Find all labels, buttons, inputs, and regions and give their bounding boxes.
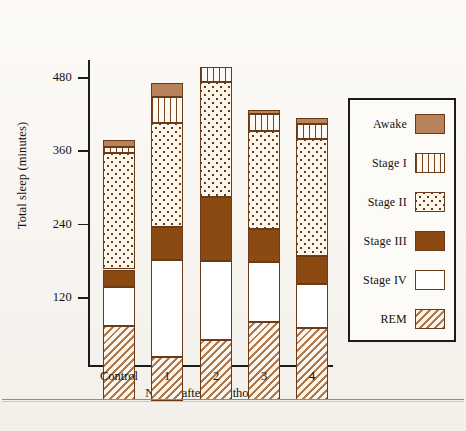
y-axis-line	[88, 60, 90, 367]
legend-box: Awake Stage I Stage II Stage III Stage I…	[348, 98, 456, 342]
legend-swatch-rem	[415, 309, 445, 329]
bar-night-2	[200, 67, 232, 400]
segment-stage-iii	[103, 270, 135, 288]
footer-rule-shadow	[2, 401, 464, 402]
segment-stage-ii	[248, 131, 280, 229]
legend-item-stage-ii: Stage II	[350, 186, 454, 218]
legend-swatch-stage-iv	[415, 270, 445, 290]
legend-swatch-stage-iii	[415, 231, 445, 251]
segment-rem	[248, 322, 280, 400]
segment-rem	[103, 326, 135, 400]
legend-label-stage-i: Stage I	[372, 156, 407, 171]
y-tick-360	[78, 150, 89, 152]
figure-canvas: 480 360 240 120 Total sleep (minutes) Ni…	[0, 0, 466, 431]
y-tick-240	[78, 224, 89, 226]
segment-stage-iii	[296, 256, 328, 284]
legend-swatch-stage-i	[415, 153, 445, 173]
segment-stage-i	[248, 114, 280, 131]
y-tick-label-480: 480	[14, 70, 72, 85]
segment-stage-ii	[296, 139, 328, 256]
bar-night-4	[296, 118, 328, 400]
segment-awake	[103, 140, 135, 147]
bar-control	[103, 140, 135, 400]
legend-item-rem: REM	[350, 303, 454, 335]
legend-label-rem: REM	[380, 312, 407, 327]
segment-awake	[151, 83, 183, 97]
segment-stage-iv	[296, 284, 328, 328]
segment-stage-ii	[103, 153, 135, 269]
plot-area: 480 360 240 120 Total sleep (minutes) Ni…	[0, 0, 350, 400]
segment-stage-i	[296, 124, 328, 139]
legend-label-stage-iii: Stage III	[364, 234, 407, 249]
legend-item-stage-iii: Stage III	[350, 225, 454, 257]
legend-item-stage-iv: Stage IV	[350, 264, 454, 296]
legend-swatch-awake	[415, 114, 445, 134]
footer-rule	[2, 399, 464, 400]
y-tick-120	[78, 297, 89, 299]
legend-item-stage-i: Stage I	[350, 147, 454, 179]
segment-stage-iv	[103, 287, 135, 326]
segment-stage-iv	[248, 262, 280, 322]
segment-stage-i	[151, 97, 183, 123]
segment-stage-iii	[200, 197, 232, 262]
segment-stage-i	[200, 67, 232, 82]
segment-stage-iv	[151, 260, 183, 357]
legend-label-stage-iv: Stage IV	[363, 273, 407, 288]
bar-night-3	[248, 110, 280, 400]
y-axis-title: Total sleep (minutes)	[15, 86, 30, 266]
segment-stage-ii	[151, 123, 183, 226]
y-tick-label-120: 120	[14, 290, 72, 305]
y-tick-480	[78, 77, 89, 79]
x-tick-label-night-4: 4	[272, 369, 352, 384]
segment-rem	[296, 328, 328, 400]
bar-night-1	[151, 83, 183, 400]
legend-item-awake: Awake	[350, 108, 454, 140]
segment-stage-iii	[248, 229, 280, 262]
segment-stage-iii	[151, 227, 183, 260]
legend-swatch-stage-ii	[415, 192, 445, 212]
legend-label-stage-ii: Stage II	[368, 195, 407, 210]
segment-stage-ii	[200, 82, 232, 196]
segment-stage-iv	[200, 261, 232, 339]
segment-stage-i	[103, 147, 135, 154]
legend-label-awake: Awake	[373, 117, 407, 132]
